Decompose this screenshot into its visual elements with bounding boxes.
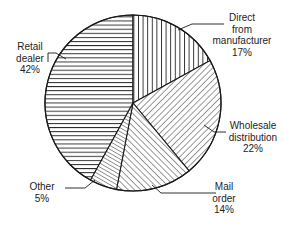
label-retail-line1: Retail	[17, 41, 43, 52]
label-mail-line2: order	[212, 193, 235, 204]
label-wholesale-distribution: Wholesale distribution 22%	[222, 120, 283, 155]
label-direct-line3: manufacturer	[213, 35, 272, 46]
label-retail-dealer: Retail dealer 42%	[4, 41, 56, 76]
label-direct-from-manufacturer: Direct from manufacturer 17%	[202, 12, 282, 58]
label-wholesale-percent: 22%	[222, 143, 283, 155]
label-mail-percent: 14%	[196, 204, 252, 216]
label-other: Other 5%	[18, 181, 66, 204]
chart-title-fragment	[0, 0, 283, 2]
pie-chart-figure: Direct from manufacturer 17% Wholesale d…	[0, 0, 283, 225]
label-direct-line2: from	[232, 24, 252, 35]
label-retail-line2: dealer	[16, 53, 44, 64]
label-mail-line1: Mail	[215, 181, 233, 192]
label-direct-line1: Direct	[229, 12, 255, 23]
pie-slices	[45, 15, 221, 191]
label-wholesale-line2: distribution	[229, 132, 277, 143]
label-other-line1: Other	[29, 181, 54, 192]
label-wholesale-line1: Wholesale	[230, 120, 277, 131]
label-mail-order: Mail order 14%	[196, 181, 252, 216]
leader-line-other	[65, 180, 95, 188]
label-direct-percent: 17%	[202, 47, 282, 59]
label-retail-percent: 42%	[4, 64, 56, 76]
label-other-percent: 5%	[18, 193, 66, 205]
